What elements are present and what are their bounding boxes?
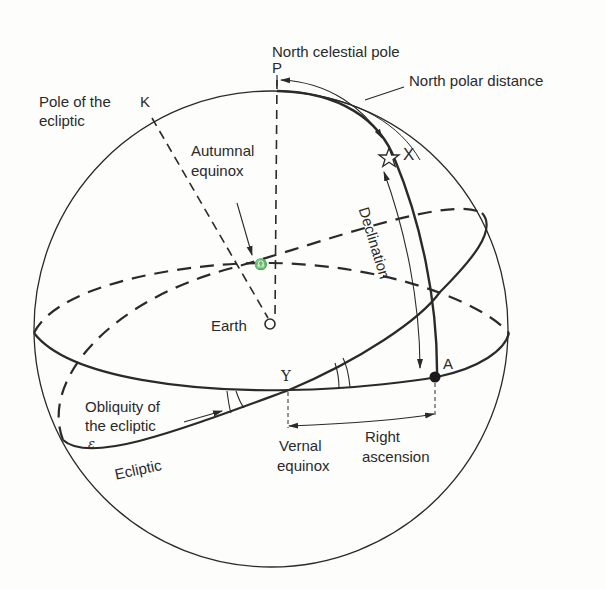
obliquity-label-2: the ecliptic [85,417,156,434]
obliquity-angle-mark-left-1 [227,391,231,413]
right-ascension-label-2: ascension [362,448,430,465]
north-polar-distance-label: North polar distance [409,72,543,89]
earth-label: Earth [211,317,247,334]
meridian-arc [300,93,420,160]
celestial-sphere-diagram: North celestial pole P North polar dista… [0,0,606,589]
point-a-label: A [443,355,453,372]
obliquity-angle-mark-left-2 [236,391,244,408]
north-polar-distance-arc [281,80,382,138]
epsilon-symbol: ε [88,436,95,451]
obliquity-label-1: Obliquity of [85,398,160,415]
point-a-marker [430,372,441,383]
pole-of-ecliptic-label-1: Pole of the [39,93,111,110]
vernal-equinox-label-2: equinox [277,457,330,474]
earth-marker [265,319,275,329]
autumnal-pointer [237,203,252,255]
celestial-axis [275,80,277,318]
autumnal-equinox-label-2: equinox [191,162,244,179]
hour-circle [277,91,437,377]
pole-p-label: P [272,59,282,76]
vernal-equinox-label-1: Vernal [279,437,322,454]
right-ascension-arc [289,414,434,426]
star-x-label: X [403,146,414,163]
north-celestial-pole-label: North celestial pole [272,43,400,60]
pole-k-label: K [140,93,150,110]
right-ascension-label-1: Right [365,428,400,445]
npd-leader [365,87,404,100]
vernal-equinox-symbol: Υ [281,367,291,385]
autumnal-equinox-label-1: Autumnal [191,142,254,159]
autumnal-equinox-symbol: ♎ [254,258,268,271]
pole-of-ecliptic-label-2: ecliptic [39,112,85,129]
